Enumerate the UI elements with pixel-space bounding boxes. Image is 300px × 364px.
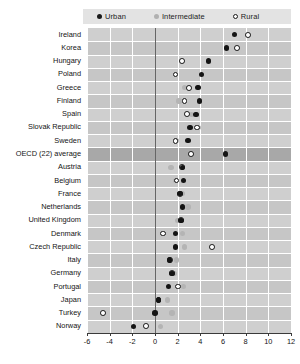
category-label: United Kingdom xyxy=(28,216,81,224)
data-point-rural xyxy=(184,111,190,117)
x-tick-label: 8 xyxy=(236,337,256,346)
data-point-rural xyxy=(175,284,181,290)
row-gridline xyxy=(87,200,291,201)
data-point-rural xyxy=(182,98,188,104)
data-point-urban xyxy=(173,244,178,249)
data-point-intermediate xyxy=(174,257,179,262)
row-band xyxy=(87,293,291,306)
row-gridline xyxy=(87,81,291,82)
x-gridline xyxy=(87,28,88,333)
row-band xyxy=(87,55,291,68)
row-gridline xyxy=(87,68,291,69)
data-point-urban xyxy=(180,165,185,170)
plot-area xyxy=(87,28,291,333)
data-point-urban xyxy=(224,45,229,50)
x-tick xyxy=(268,333,269,336)
row-gridline xyxy=(87,280,291,281)
x-tick xyxy=(132,333,133,336)
x-tick-label: -6 xyxy=(77,337,97,346)
x-tick xyxy=(155,333,156,336)
category-label: Ireland xyxy=(58,31,81,39)
data-point-urban xyxy=(156,297,161,302)
row-gridline xyxy=(87,147,291,148)
open-dot-icon xyxy=(233,14,238,19)
row-gridline xyxy=(87,174,291,175)
data-point-intermediate xyxy=(165,297,170,302)
category-label: Greece xyxy=(57,84,81,92)
category-label: Czech Republic xyxy=(29,243,81,251)
x-tick-label: -4 xyxy=(100,337,120,346)
category-label: Slovak Republic xyxy=(28,123,81,131)
row-gridline xyxy=(87,293,291,294)
category-label: Poland xyxy=(58,70,81,78)
data-point-urban xyxy=(187,125,192,130)
row-band xyxy=(87,174,291,187)
legend-item-rural: Rural xyxy=(233,12,259,21)
category-label: Portugal xyxy=(53,283,81,291)
data-point-intermediate xyxy=(180,231,185,236)
data-point-intermediate xyxy=(176,98,181,103)
category-label: Japan xyxy=(61,296,81,304)
data-point-rural xyxy=(186,85,192,91)
data-point-urban xyxy=(223,151,228,156)
x-gridline xyxy=(110,28,111,333)
row-gridline xyxy=(87,94,291,95)
category-label: Austria xyxy=(58,163,81,171)
x-tick xyxy=(110,333,111,336)
row-gridline xyxy=(87,306,291,307)
row-band xyxy=(87,253,291,266)
x-tick xyxy=(200,333,201,336)
data-point-rural xyxy=(234,45,240,51)
x-axis-line xyxy=(87,333,291,334)
data-point-intermediate xyxy=(185,204,190,209)
legend-label-rural: Rural xyxy=(241,12,259,21)
legend-label-intermediate: Intermediate xyxy=(162,12,205,21)
data-point-urban xyxy=(180,204,185,209)
data-point-urban xyxy=(206,58,211,63)
category-label: Hungary xyxy=(53,57,81,65)
data-point-urban xyxy=(169,271,174,276)
category-label: Netherlands xyxy=(41,203,81,211)
row-gridline xyxy=(87,214,291,215)
row-band xyxy=(87,306,291,319)
category-label: Korea xyxy=(61,44,81,52)
row-band xyxy=(87,214,291,227)
category-axis-labels: IrelandKoreaHungaryPolandGreeceFinlandSp… xyxy=(0,28,84,333)
data-point-rural xyxy=(100,310,106,316)
x-tick xyxy=(223,333,224,336)
x-gridline xyxy=(132,28,133,333)
x-gridline xyxy=(223,28,224,333)
filled-dot-icon xyxy=(97,14,102,19)
category-label: OECD (22) average xyxy=(16,150,81,158)
row-gridline xyxy=(87,121,291,122)
data-point-urban xyxy=(193,112,198,117)
data-point-urban xyxy=(178,218,183,223)
category-label: Turkey xyxy=(59,309,81,317)
category-label: Belgium xyxy=(54,177,81,185)
x-tick xyxy=(178,333,179,336)
data-point-intermediate xyxy=(182,244,187,249)
x-gridline xyxy=(246,28,247,333)
zero-reference-line xyxy=(155,28,156,333)
row-gridline xyxy=(87,240,291,241)
row-band xyxy=(87,187,291,200)
legend-item-urban: Urban xyxy=(97,12,126,21)
x-tick-label: 0 xyxy=(145,337,165,346)
row-band xyxy=(87,240,291,253)
x-tick-label: 2 xyxy=(168,337,188,346)
x-tick-label: 6 xyxy=(213,337,233,346)
x-tick-label: -2 xyxy=(122,337,142,346)
data-point-rural xyxy=(194,125,200,131)
row-gridline xyxy=(87,253,291,254)
data-point-rural xyxy=(173,138,179,144)
row-gridline xyxy=(87,320,291,321)
x-gridline xyxy=(268,28,269,333)
data-point-intermediate xyxy=(169,310,174,315)
legend-item-intermediate: Intermediate xyxy=(154,12,205,21)
row-band xyxy=(87,280,291,293)
data-point-rural xyxy=(209,244,215,250)
row-gridline xyxy=(87,41,291,42)
x-gridline xyxy=(291,28,292,333)
data-point-urban xyxy=(197,98,202,103)
category-label: Germany xyxy=(51,269,81,277)
